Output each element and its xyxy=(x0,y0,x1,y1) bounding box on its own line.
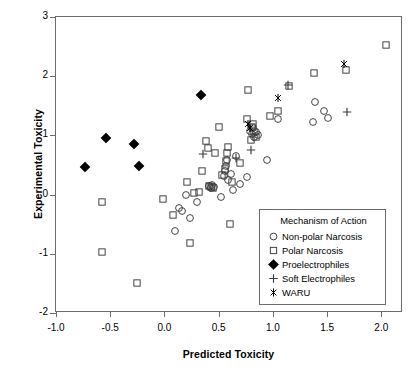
x-tick xyxy=(273,311,274,317)
x-tick-label: 0.5 xyxy=(199,322,239,333)
data-point-waru xyxy=(339,58,350,69)
legend-item: Proelectrophiles xyxy=(265,257,380,271)
legend-item: WARU xyxy=(265,285,380,299)
data-point-polar-narcosis xyxy=(223,141,234,152)
data-point-soft-electrophiles xyxy=(198,149,209,160)
data-point-polar-narcosis xyxy=(380,40,391,51)
legend-item: Soft Electrophiles xyxy=(265,271,380,285)
x-tick xyxy=(219,311,220,317)
data-point-proelectrophiles xyxy=(196,89,207,100)
data-point-non-polar-narcosis xyxy=(185,212,196,223)
x-tick xyxy=(56,311,57,317)
data-point-soft-electrophiles xyxy=(341,107,352,118)
legend-title: Mechanism of Action xyxy=(267,215,380,226)
open-square-icon xyxy=(265,245,282,256)
y-tick-label: -2 xyxy=(26,306,48,317)
x-tick-label: -1.0 xyxy=(36,322,76,333)
legend-item-label: Polar Narcosis xyxy=(282,245,343,256)
x-tick-label: -0.5 xyxy=(90,322,130,333)
legend-item-label: Soft Electrophiles xyxy=(282,273,355,284)
data-point-polar-narcosis xyxy=(185,237,196,248)
x-tick xyxy=(164,311,165,317)
data-point-polar-narcosis xyxy=(309,68,320,79)
y-tick-label: 3 xyxy=(26,10,48,21)
data-point-proelectrophiles xyxy=(100,132,111,143)
legend-item: Polar Narcosis xyxy=(265,243,380,257)
data-point-non-polar-narcosis xyxy=(262,155,273,166)
legend-entries: Non-polar NarcosisPolar NarcosisProelect… xyxy=(265,229,380,299)
data-point-polar-narcosis xyxy=(182,177,193,188)
data-point-waru xyxy=(273,93,284,104)
x-tick xyxy=(327,311,328,317)
plus-icon xyxy=(265,273,282,284)
data-point-soft-electrophiles xyxy=(283,80,294,91)
y-tick-label: 2 xyxy=(26,69,48,80)
legend-item: Non-polar Narcosis xyxy=(265,229,380,243)
y-tick-label: -1 xyxy=(26,247,48,258)
data-point-polar-narcosis xyxy=(132,278,143,289)
data-point-non-polar-narcosis xyxy=(307,116,318,127)
data-point-polar-narcosis xyxy=(242,85,253,96)
legend: Mechanism of Action Non-polar NarcosisPo… xyxy=(259,209,386,305)
data-point-polar-narcosis xyxy=(273,105,284,116)
legend-item-label: Non-polar Narcosis xyxy=(282,231,362,242)
data-point-waru xyxy=(245,123,256,134)
open-circle-icon xyxy=(265,231,282,242)
x-tick xyxy=(381,311,382,317)
data-point-polar-narcosis xyxy=(208,183,219,194)
x-tick xyxy=(110,311,111,317)
data-point-polar-narcosis xyxy=(210,147,221,158)
data-point-polar-narcosis xyxy=(197,165,208,176)
data-point-polar-narcosis xyxy=(96,197,107,208)
data-point-proelectrophiles xyxy=(134,161,145,172)
x-tick-label: 1.5 xyxy=(307,322,347,333)
data-point-soft-electrophiles xyxy=(231,152,242,163)
data-point-proelectrophiles xyxy=(80,161,91,172)
data-point-non-polar-narcosis xyxy=(170,226,181,237)
data-point-non-polar-narcosis xyxy=(323,112,334,123)
data-point-polar-narcosis xyxy=(96,247,107,258)
data-point-non-polar-narcosis xyxy=(241,171,252,182)
data-point-polar-narcosis xyxy=(224,219,235,230)
data-point-polar-narcosis xyxy=(158,193,169,204)
legend-item-label: WARU xyxy=(282,287,310,298)
x-tick-label: 1.0 xyxy=(253,322,293,333)
scatter-plot-figure: Experimental Toxicity -2-10123 -1.0-0.50… xyxy=(0,0,414,371)
y-tick-label: 1 xyxy=(26,128,48,139)
legend-item-label: Proelectrophiles xyxy=(282,259,349,270)
data-point-proelectrophiles xyxy=(129,138,140,149)
x-tick-label: 0.0 xyxy=(144,322,184,333)
y-tick-label: 0 xyxy=(26,188,48,199)
x-axis-title: Predicted Toxicity xyxy=(55,348,402,360)
asterisk-icon xyxy=(265,287,282,298)
data-point-polar-narcosis xyxy=(168,209,179,220)
y-axis-title: Experimental Toxicity xyxy=(32,64,44,264)
data-point-polar-narcosis xyxy=(226,176,237,187)
data-point-polar-narcosis xyxy=(213,122,224,133)
data-point-soft-electrophiles xyxy=(246,144,257,155)
x-tick-label: 2.0 xyxy=(361,322,401,333)
filled-diamond-icon xyxy=(265,259,282,270)
